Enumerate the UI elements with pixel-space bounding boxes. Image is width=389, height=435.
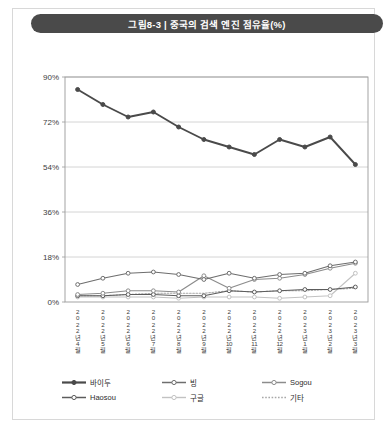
legend-label: 기타: [290, 392, 304, 403]
data-point: [101, 103, 105, 107]
data-point: [328, 288, 332, 292]
legend-swatch-sogou: [261, 378, 287, 387]
series-baidu: [76, 88, 358, 167]
data-point: [126, 115, 130, 119]
data-point: [101, 291, 105, 295]
legend-label: Haosou: [90, 393, 116, 402]
data-point: [76, 293, 80, 297]
legend-marker: [172, 380, 176, 384]
x-axis-tick-label: 2022년11월: [246, 309, 262, 354]
legend-swatch-google: [161, 393, 187, 402]
data-point: [303, 288, 307, 292]
data-point: [126, 293, 130, 297]
data-point: [227, 271, 231, 275]
y-axis-label: 18%: [43, 253, 59, 262]
legend-marker: [272, 380, 276, 384]
x-axis-tick-label: 2023년3월: [347, 309, 363, 354]
data-point: [202, 274, 206, 278]
legend-marker: [72, 380, 76, 384]
data-point: [303, 295, 307, 299]
legend-item-sogou[interactable]: Sogou: [261, 378, 345, 387]
legend-row-1: 바이두빙Sogou: [33, 375, 373, 390]
x-axis-tick-line: 월: [246, 347, 262, 353]
series-line: [78, 262, 356, 285]
figure-card: 그림8-3 | 중국의 검색 엔진 점유율(%) 0%18%36%54%72%9…: [12, 8, 375, 420]
data-point: [303, 271, 307, 275]
data-point: [278, 276, 282, 280]
legend-item-google[interactable]: 구글: [161, 392, 245, 403]
data-point: [76, 283, 80, 287]
data-point: [303, 145, 307, 149]
x-axis-tick-line: 월: [322, 347, 338, 353]
x-axis-tick-label: 2022년5월: [95, 309, 111, 354]
x-axis-tick-line: 월: [171, 347, 187, 353]
data-point: [101, 276, 105, 280]
data-point: [353, 260, 357, 264]
data-point: [353, 163, 357, 167]
legend-label: 바이두: [90, 377, 111, 388]
x-axis-tick-label: 2022년9월: [196, 309, 212, 354]
figure-title-bar: 그림8-3 | 중국의 검색 엔진 점유율(%): [31, 14, 383, 33]
data-point: [328, 264, 332, 268]
x-axis-tick-labels: 2022년4월2022년5월2022년6월2022년7월2022년8월2022년…: [33, 309, 373, 367]
legend-label: Sogou: [290, 378, 312, 387]
data-point: [278, 289, 282, 293]
x-axis-tick-label: 2022년4월: [70, 309, 86, 354]
data-point: [252, 276, 256, 280]
data-point: [151, 293, 155, 297]
data-point: [278, 296, 282, 300]
data-point: [202, 294, 206, 298]
data-point: [252, 290, 256, 294]
x-axis-tick-label: 2023년2월: [322, 309, 338, 354]
x-axis-tick-label: 2022년10월: [221, 309, 237, 354]
legend-item-etc[interactable]: 기타: [261, 392, 345, 403]
data-point: [76, 88, 80, 92]
x-axis-tick-label: 2022년8월: [171, 309, 187, 354]
x-axis-tick-line: 월: [145, 347, 161, 353]
legend-marker: [72, 395, 76, 399]
data-point: [151, 270, 155, 274]
data-point: [227, 145, 231, 149]
x-axis-tick-label: 2022년12월: [272, 309, 288, 354]
legend-row-2: Haosou구글기타: [33, 390, 373, 405]
y-axis-label: 72%: [43, 118, 59, 127]
data-point: [126, 271, 130, 275]
data-point: [353, 285, 357, 289]
data-point: [177, 290, 181, 294]
y-axis-label: 0%: [47, 298, 59, 307]
data-point: [328, 135, 332, 139]
x-axis-tick-line: 월: [95, 347, 111, 353]
legend-label: 빙: [190, 377, 197, 388]
legend-marker: [172, 395, 176, 399]
chart-legend: 바이두빙Sogou Haosou구글기타: [33, 375, 373, 409]
data-point: [177, 125, 181, 129]
data-point: [177, 273, 181, 277]
legend-item-haosou[interactable]: Haosou: [61, 393, 145, 402]
x-axis-tick-line: 월: [196, 347, 212, 353]
x-axis-tick-line: 월: [347, 347, 363, 353]
data-point: [252, 295, 256, 299]
data-point: [252, 153, 256, 157]
y-axis-label: 36%: [43, 208, 59, 217]
x-axis-tick-line: 월: [297, 347, 313, 353]
series-sogou: [76, 261, 358, 296]
data-point: [177, 294, 181, 298]
x-axis-tick-line: 월: [221, 347, 237, 353]
x-axis-tick-label: 2023년1월: [297, 309, 313, 354]
data-point: [278, 273, 282, 277]
data-point: [202, 278, 206, 282]
data-point: [202, 138, 206, 142]
legend-item-baidu[interactable]: 바이두: [61, 377, 145, 388]
data-point: [227, 295, 231, 299]
y-axis-label: 90%: [43, 73, 59, 82]
x-axis-tick-line: 월: [272, 347, 288, 353]
y-axis-label: 54%: [43, 163, 59, 172]
legend-label: 구글: [190, 392, 204, 403]
legend-item-bing[interactable]: 빙: [161, 377, 245, 388]
legend-swatch-etc: [261, 393, 287, 402]
data-point: [328, 294, 332, 298]
legend-swatch-haosou: [61, 393, 87, 402]
figure-title-text: 그림8-3 | 중국의 검색 엔진 점유율(%): [128, 17, 285, 31]
data-point: [278, 138, 282, 142]
legend-swatch-bing: [161, 378, 187, 387]
